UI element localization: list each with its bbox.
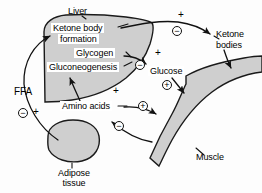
- ffa-label: FFA: [14, 87, 32, 97]
- ketone-body-formation-label-line1: Ketone body: [51, 23, 104, 33]
- adipose-label-line1: Adipose: [50, 168, 98, 178]
- adipose-label-line2: tissue: [50, 178, 98, 188]
- arrow-glucose-to-muscle: [172, 78, 184, 93]
- glucose-label: Glucose: [148, 66, 184, 76]
- adipose-shape: [48, 120, 100, 162]
- sign-plus-amino-acids: +: [113, 86, 119, 96]
- ketone-bodies-label-line2: bodies: [216, 40, 242, 50]
- sign-plus-glucose-out: +: [155, 48, 161, 58]
- sign-plus-ketone-out: +: [178, 10, 184, 20]
- amino-acids-label: Amino acids: [60, 101, 112, 111]
- pathway-diagram: Liver Muscle Adipose tissue Ketone body …: [0, 0, 262, 193]
- sign-plus-glucose-muscle: +: [162, 80, 172, 90]
- sign-plus-amino-muscle: +: [138, 101, 148, 111]
- sign-minus-muscle-amino: −: [114, 121, 124, 131]
- sign-minus-adipose: −: [18, 108, 28, 118]
- gluconeogenesis-label: Gluconeogenesis: [47, 62, 119, 72]
- sign-minus-glucose-out: −: [135, 60, 145, 70]
- glycogen-label: Glycogen: [74, 48, 115, 58]
- sign-minus-ketone-out: −: [172, 26, 182, 36]
- muscle-label: Muscle: [196, 152, 224, 162]
- ketone-body-formation-label-line2: formation: [58, 34, 99, 44]
- sign-plus-adipose: +: [33, 107, 39, 117]
- ketone-bodies-label-line1: Ketone: [216, 29, 244, 39]
- liver-label: Liver: [68, 6, 87, 16]
